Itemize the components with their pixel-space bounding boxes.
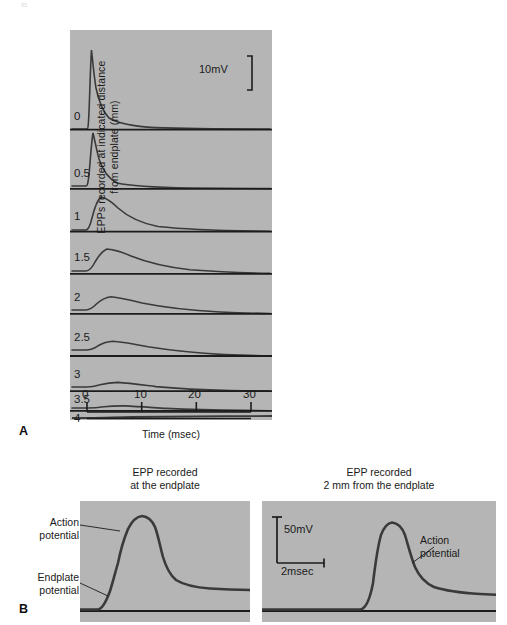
panel-b-letter: B — [19, 602, 28, 616]
panel-b-left-title-line1: EPP recorded — [80, 466, 250, 479]
panel-b-left-title: EPP recorded at the endplate — [80, 466, 250, 491]
leader-endplate-left — [80, 583, 108, 596]
panel-b-right-title-line1: EPP recorded — [262, 466, 496, 479]
label-action-potential-right: Action potential — [420, 534, 490, 559]
label-action-potential-right-line1: Action — [420, 534, 490, 547]
figure-root: 85 — [0, 0, 507, 625]
label-endplate-potential-left-line1: Endplate — [13, 571, 79, 584]
y-axis-label-line2: from endplate (mm) — [108, 32, 121, 262]
label-action-potential-left-line1: Action — [19, 516, 79, 529]
panel-b-right-title-line2: 2 mm from the endplate — [262, 479, 496, 492]
panel-a-y-axis-label: EPPs recorded at indicated distance from… — [95, 32, 129, 262]
label-endplate-potential-left-line2: potential — [13, 584, 79, 597]
panel-b-right-title: EPP recorded 2 mm from the endplate — [262, 466, 496, 491]
trace-label-2: 2 — [74, 291, 80, 303]
page-corner-mark: 85 — [21, 2, 28, 8]
panel-b-left-title-line2: at the endplate — [80, 479, 250, 492]
panel-b-right-plot: 50mV 2msec — [262, 501, 496, 622]
panel-b-left-trace — [80, 501, 250, 622]
scale-bar-label-10mv: 10mV — [199, 63, 228, 75]
label-endplate-potential-left: Endplate potential — [13, 571, 79, 596]
trace-label-0-5: 0.5 — [74, 167, 90, 179]
x-tick-label-0: 0 — [82, 388, 88, 400]
trace-label-1-5: 1.5 — [74, 251, 90, 263]
trace-label-0: 0 — [74, 110, 80, 122]
x-tick-label-20: 20 — [188, 388, 201, 400]
panel-a-letter: A — [19, 424, 28, 438]
panel-a-x-tick-rail — [70, 401, 272, 421]
x-tick-label-10: 10 — [134, 388, 147, 400]
trace-label-1: 1 — [74, 210, 80, 222]
scale-bar-10mv-bracket — [247, 56, 252, 90]
panel-b-right-trace — [262, 501, 496, 622]
x-tick-label-30: 30 — [243, 388, 256, 400]
trace-label-2-5: 2.5 — [74, 331, 90, 343]
y-axis-label-line1: EPPs recorded at indicated distance — [95, 32, 108, 262]
label-action-potential-left: Action potential — [19, 516, 79, 541]
panel-a-x-axis-label: Time (msec) — [70, 428, 272, 440]
scale-label-50mv: 50mV — [284, 523, 313, 535]
label-action-potential-left-line2: potential — [19, 529, 79, 542]
scale-label-2msec: 2msec — [281, 565, 313, 577]
panel-b-left-plot — [80, 501, 250, 622]
leader-action-left — [80, 525, 120, 531]
label-action-potential-right-line2: potential — [420, 547, 490, 560]
trace-label-3: 3 — [74, 368, 80, 380]
